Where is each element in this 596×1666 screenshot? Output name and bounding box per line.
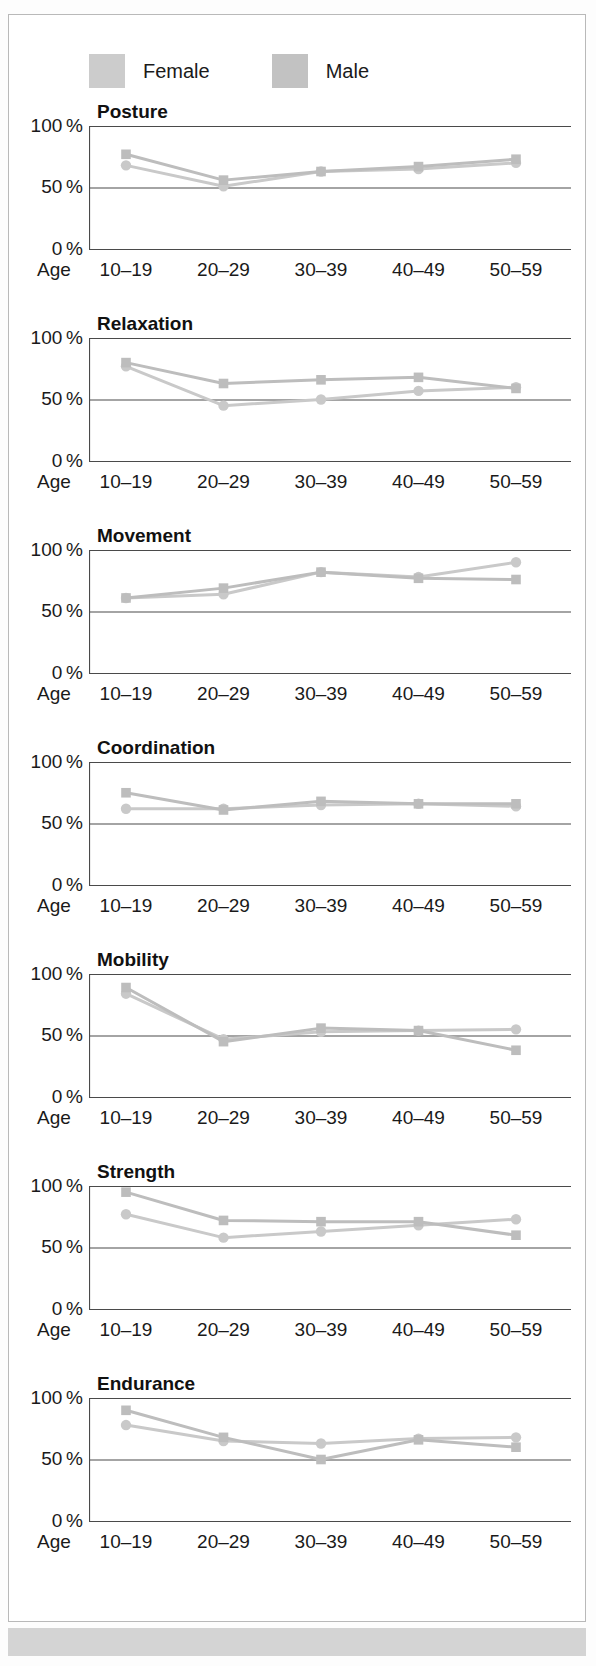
y-tick-label: 50 %	[41, 812, 83, 834]
data-point-male	[414, 799, 424, 809]
y-tick-label: 50 %	[41, 1448, 83, 1470]
plot-area	[89, 1398, 571, 1521]
x-tick-label: 40–49	[392, 895, 445, 917]
legend-label-male: Male	[326, 60, 369, 83]
data-point-female	[413, 386, 423, 396]
y-tick-label: 50 %	[41, 1236, 83, 1258]
data-point-male	[121, 593, 131, 603]
x-axis-labels: Age10–1920–2930–3940–4950–59	[9, 471, 587, 499]
plot-area	[89, 974, 571, 1097]
x-tick-label: 10–19	[100, 1319, 153, 1341]
chart-block-movement: Movement100 %50 %0 %Age10–1920–2930–3940…	[9, 525, 587, 732]
y-tick-label: 100 %	[31, 115, 83, 137]
x-axis-age-label: Age	[37, 259, 71, 281]
data-point-male	[219, 805, 229, 815]
x-tick-label: 50–59	[490, 895, 543, 917]
data-point-female	[121, 804, 131, 814]
data-point-male	[414, 1217, 424, 1227]
data-point-male	[219, 1037, 229, 1047]
y-tick-label: 50 %	[41, 600, 83, 622]
chart-block-mobility: Mobility100 %50 %0 %Age10–1920–2930–3940…	[9, 949, 587, 1156]
x-tick-label: 10–19	[100, 683, 153, 705]
x-tick-label: 30–39	[295, 683, 348, 705]
chart-title: Endurance	[97, 1373, 195, 1395]
plot-svg	[89, 550, 571, 681]
plot-svg	[89, 338, 571, 469]
x-axis-age-label: Age	[37, 1531, 71, 1553]
y-tick-label: 0 %	[52, 662, 83, 684]
x-tick-label: 40–49	[392, 259, 445, 281]
y-tick-label: 0 %	[52, 874, 83, 896]
x-axis-age-label: Age	[37, 1319, 71, 1341]
data-point-female	[316, 394, 326, 404]
x-axis-labels: Age10–1920–2930–3940–4950–59	[9, 259, 587, 287]
y-tick-label: 100 %	[31, 1175, 83, 1197]
y-tick-label: 100 %	[31, 751, 83, 773]
y-tick-label: 50 %	[41, 176, 83, 198]
data-point-male	[121, 1187, 131, 1197]
x-tick-label: 40–49	[392, 1319, 445, 1341]
y-tick-label: 100 %	[31, 1387, 83, 1409]
y-axis-labels: 100 %50 %0 %	[9, 974, 83, 1097]
y-axis-labels: 100 %50 %0 %	[9, 762, 83, 885]
x-axis-age-label: Age	[37, 471, 71, 493]
plot-area	[89, 126, 571, 249]
data-point-male	[414, 1026, 424, 1036]
x-axis-age-label: Age	[37, 683, 71, 705]
data-point-male	[414, 162, 424, 172]
x-tick-label: 10–19	[100, 895, 153, 917]
data-point-male	[316, 375, 326, 385]
x-tick-label: 30–39	[295, 1319, 348, 1341]
y-axis-labels: 100 %50 %0 %	[9, 550, 83, 673]
data-point-male	[219, 1433, 229, 1443]
y-tick-label: 0 %	[52, 1510, 83, 1532]
chart-title: Posture	[97, 101, 168, 123]
chart-block-relaxation: Relaxation100 %50 %0 %Age10–1920–2930–39…	[9, 313, 587, 520]
plot-svg	[89, 1186, 571, 1317]
data-point-female	[511, 1024, 521, 1034]
figure-panel: Female Male Posture100 %50 %0 %Age10–192…	[8, 14, 586, 1622]
x-axis-labels: Age10–1920–2930–3940–4950–59	[9, 683, 587, 711]
plot-svg	[89, 762, 571, 893]
y-tick-label: 50 %	[41, 388, 83, 410]
data-point-male	[121, 983, 131, 993]
plot-svg	[89, 1398, 571, 1529]
data-point-male	[511, 154, 521, 164]
x-tick-label: 20–29	[197, 1107, 250, 1129]
x-tick-label: 30–39	[295, 259, 348, 281]
y-tick-label: 100 %	[31, 963, 83, 985]
data-point-female	[121, 1420, 131, 1430]
page-root: Female Male Posture100 %50 %0 %Age10–192…	[0, 0, 596, 1666]
data-point-male	[414, 573, 424, 583]
chart-block-strength: Strength100 %50 %0 %Age10–1920–2930–3940…	[9, 1161, 587, 1368]
legend-entry-female: Female	[89, 54, 210, 88]
series-line-male	[126, 988, 516, 1051]
bottom-strip	[8, 1628, 586, 1656]
data-point-female	[316, 1438, 326, 1448]
x-tick-label: 20–29	[197, 1319, 250, 1341]
x-tick-label: 30–39	[295, 895, 348, 917]
y-axis-labels: 100 %50 %0 %	[9, 126, 83, 249]
y-tick-label: 100 %	[31, 327, 83, 349]
x-tick-label: 50–59	[490, 471, 543, 493]
x-tick-label: 10–19	[100, 1531, 153, 1553]
data-point-female	[511, 557, 521, 567]
y-axis-labels: 100 %50 %0 %	[9, 1186, 83, 1309]
chart-block-coordination: Coordination100 %50 %0 %Age10–1920–2930–…	[9, 737, 587, 944]
x-axis-age-label: Age	[37, 1107, 71, 1129]
plot-area	[89, 550, 571, 673]
x-axis-labels: Age10–1920–2930–3940–4950–59	[9, 895, 587, 923]
data-point-female	[121, 160, 131, 170]
x-axis-labels: Age10–1920–2930–3940–4950–59	[9, 1319, 587, 1347]
x-tick-label: 30–39	[295, 1531, 348, 1553]
data-point-male	[219, 379, 229, 389]
data-point-male	[316, 1023, 326, 1033]
y-axis-labels: 100 %50 %0 %	[9, 338, 83, 461]
data-point-male	[511, 1230, 521, 1240]
data-point-male	[121, 788, 131, 798]
data-point-male	[316, 1455, 326, 1465]
plot-svg	[89, 974, 571, 1105]
chart-legend: Female Male	[89, 51, 369, 91]
x-tick-label: 20–29	[197, 895, 250, 917]
plot-area	[89, 1186, 571, 1309]
